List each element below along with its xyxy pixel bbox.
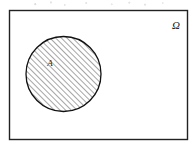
venn-diagram-canvas: A Ω xyxy=(0,0,196,151)
omega-symbol: Ω xyxy=(172,19,180,31)
set-a-label: A xyxy=(46,58,53,68)
venn-diagram-figure: A Ω xyxy=(0,0,196,151)
